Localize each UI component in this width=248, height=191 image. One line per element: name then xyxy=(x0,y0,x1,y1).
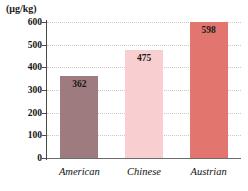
y-tick-label: 200 xyxy=(0,108,42,118)
x-category-label: Austrian xyxy=(176,166,241,177)
bar-value-label: 362 xyxy=(60,79,98,89)
y-tick-label: 0 xyxy=(0,153,42,163)
y-tick-label: 500 xyxy=(0,40,42,50)
x-category-label: Chinese xyxy=(112,166,177,177)
y-tick-label: 300 xyxy=(0,85,42,95)
bar-value-label: 475 xyxy=(125,53,163,63)
axis-baseline xyxy=(47,158,241,159)
y-tick-label: 400 xyxy=(0,62,42,72)
bar: 475 xyxy=(125,50,163,158)
bar: 598 xyxy=(190,22,228,158)
bar-value-label: 598 xyxy=(190,25,228,35)
bar: 362 xyxy=(60,76,98,158)
x-category-label: American xyxy=(47,166,112,177)
y-tick-label: 600 xyxy=(0,17,42,27)
y-tick-label: 100 xyxy=(0,130,42,140)
bar-chart: (μg/kg) 6005004003002001000 362475598 Am… xyxy=(0,0,248,191)
y-axis-unit-label: (μg/kg) xyxy=(6,3,37,14)
plot-area: 362475598 xyxy=(47,22,241,158)
